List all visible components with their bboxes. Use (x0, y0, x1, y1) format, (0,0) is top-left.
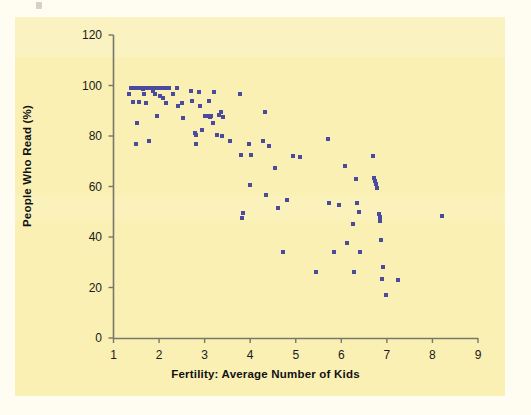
scatter-point (381, 265, 385, 269)
scatter-point (345, 241, 349, 245)
scatter-point (127, 92, 131, 96)
scatter-point (131, 100, 135, 104)
scatter-point (211, 121, 215, 125)
scatter-point (358, 250, 362, 254)
scatter-point (248, 183, 252, 187)
y-axis-tick-label: 80 (60, 129, 102, 143)
scatter-point (134, 142, 138, 146)
scatter-point (249, 153, 253, 157)
scatter-point (197, 90, 201, 94)
scatter-point (273, 166, 277, 170)
scatter-point (144, 101, 148, 105)
scatter-point (164, 101, 168, 105)
scatter-point (327, 201, 331, 205)
x-axis-tick-label: 9 (475, 348, 482, 362)
scatter-point (240, 216, 244, 220)
x-axis-tick-label: 4 (247, 348, 254, 362)
axes-svg (0, 0, 531, 415)
scatter-point (147, 139, 151, 143)
scatter-point (355, 201, 359, 205)
scatter-point (167, 86, 171, 90)
scatter-point (354, 177, 358, 181)
scatter-point (212, 90, 216, 94)
scatter-point (261, 139, 265, 143)
scatter-point (194, 142, 198, 146)
scatter-point (215, 133, 219, 137)
y-axis-tick-label: 60 (60, 180, 102, 194)
x-axis-title: Fertility: Average Number of Kids (0, 368, 531, 380)
figure-canvas: 020406080100120 123456789 Fertility: Ave… (0, 0, 531, 415)
x-axis-tick-label: 8 (429, 348, 436, 362)
scatter-point (281, 250, 285, 254)
scatter-point (332, 250, 336, 254)
scatter-point (371, 154, 375, 158)
scatter-point (291, 154, 295, 158)
y-axis-tick-label: 0 (60, 331, 102, 345)
scatter-point (137, 100, 141, 104)
y-axis-title: People Who Read (%) (21, 76, 33, 256)
x-axis-tick-label: 3 (201, 348, 208, 362)
scatter-point (198, 104, 202, 108)
scatter-point (171, 92, 175, 96)
scatter-point (352, 270, 356, 274)
scatter-point (298, 155, 302, 159)
scatter-point (135, 121, 139, 125)
scatter-point (263, 110, 267, 114)
scatter-point (351, 222, 355, 226)
scatter-point (276, 206, 280, 210)
scatter-point (285, 198, 289, 202)
scatter-point (343, 164, 347, 168)
scatter-point (267, 144, 271, 148)
scatter-point (221, 115, 225, 119)
x-axis-tick-label: 2 (156, 348, 163, 362)
x-axis-tick-label: 6 (338, 348, 345, 362)
scatter-point (264, 193, 268, 197)
scatter-point (337, 203, 341, 207)
scatter-point (375, 186, 379, 190)
scatter-point (190, 99, 194, 103)
scatter-point (228, 139, 232, 143)
scatter-point (239, 153, 243, 157)
scatter-point (384, 293, 388, 297)
scatter-point (238, 92, 242, 96)
scatter-point (378, 219, 382, 223)
x-axis-tick-label: 7 (384, 348, 391, 362)
y-axis-tick-label: 100 (60, 79, 102, 93)
scatter-point (194, 133, 198, 137)
scatter-point (440, 214, 444, 218)
y-axis-tick-label: 20 (60, 281, 102, 295)
scatter-point (155, 114, 159, 118)
scatter-point (241, 211, 245, 215)
scatter-point (220, 134, 224, 138)
x-axis-tick-label: 5 (292, 348, 299, 362)
scatter-point (153, 92, 157, 96)
scatter-point (200, 128, 204, 132)
scatter-point (209, 114, 213, 118)
scatter-point (142, 92, 146, 96)
scatter-point (180, 101, 184, 105)
y-axis-tick-label: 40 (60, 230, 102, 244)
scatter-point (314, 270, 318, 274)
scatter-point (219, 110, 223, 114)
scatter-point (161, 96, 165, 100)
scatter-point (175, 86, 179, 90)
axis-lines (114, 35, 479, 339)
x-axis-tick-label: 1 (110, 348, 117, 362)
scatter-point (380, 277, 384, 281)
scatter-point (357, 210, 361, 214)
scatter-point (247, 142, 251, 146)
scatter-point (396, 278, 400, 282)
scatter-point (207, 99, 211, 103)
y-axis-tick-label: 120 (60, 28, 102, 42)
scatter-point (181, 116, 185, 120)
scatter-point (189, 89, 193, 93)
scatter-point (326, 137, 330, 141)
scatter-point (379, 238, 383, 242)
